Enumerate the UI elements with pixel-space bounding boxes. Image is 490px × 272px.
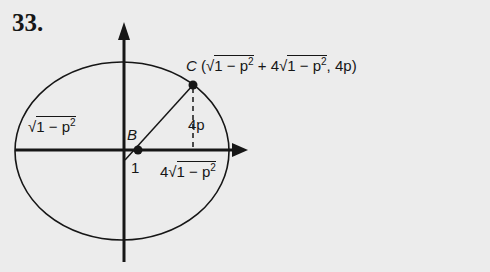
point-b-label: B xyxy=(127,127,137,142)
sqrt-icon: √ xyxy=(168,163,176,180)
ellipse-diagram xyxy=(0,0,490,272)
y-axis-arrow-icon xyxy=(118,22,130,40)
sqrt-icon: √ xyxy=(28,118,36,135)
point-c-coordinates: C (√1 − p2 + 4√1 − p2, 4p) xyxy=(186,57,357,73)
height-label: 4p xyxy=(188,117,205,132)
sqrt-icon: √ xyxy=(206,57,214,74)
problem-number: 33. xyxy=(12,10,43,35)
unit-label: 1 xyxy=(131,160,139,175)
x-axis-arrow-icon xyxy=(232,143,248,157)
point-c-dot xyxy=(189,81,198,90)
point-b-dot xyxy=(134,146,143,155)
point-c-label: C xyxy=(186,57,197,74)
bottom-length-label: 4√1 − p2 xyxy=(160,163,216,179)
left-semi-axis-label: √1 − p2 xyxy=(28,118,76,134)
